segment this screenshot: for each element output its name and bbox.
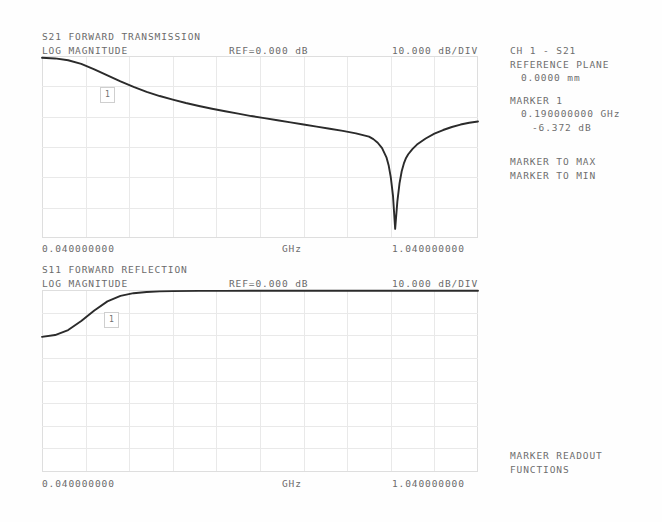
s21-marker-flag[interactable]: 1 [100,87,115,103]
softkey-marker-to-max[interactable]: MARKER TO MAX [510,155,660,169]
s21-format: LOG MAGNITUDE [42,45,128,56]
s11-marker-flag[interactable]: 1 [104,312,119,328]
s11-stop-freq: 1.040000000 [392,478,465,489]
marker-label: MARKER 1 [510,94,660,108]
s11-format: LOG MAGNITUDE [42,278,128,289]
softkey-functions[interactable]: FUNCTIONS [510,463,660,477]
s11-header-row: LOG MAGNITUDE REF=0.000 dB 10.000 dB/DIV [42,278,492,289]
s21-plot[interactable]: 1 [42,56,478,238]
s21-scale: 10.000 dB/DIV [392,45,478,56]
s21-stop-freq: 1.040000000 [392,243,465,254]
softkey-marker-to-min[interactable]: MARKER TO MIN [510,169,660,183]
status-panel: CH 1 - S21 REFERENCE PLANE 0.0000 mm MAR… [510,44,660,182]
s11-unit: GHz [282,478,302,489]
s11-title: S11 FORWARD REFLECTION [42,264,188,275]
s11-start-freq: 0.040000000 [42,478,115,489]
vna-screen: S21 FORWARD TRANSMISSION LOG MAGNITUDE R… [0,0,662,522]
s11-scale: 10.000 dB/DIV [392,278,478,289]
s11-plot[interactable]: 1 [42,290,478,472]
s21-unit: GHz [282,243,302,254]
s21-header-row: LOG MAGNITUDE REF=0.000 dB 10.000 dB/DIV [42,45,492,56]
softkey-marker-readout[interactable]: MARKER READOUT [510,449,660,463]
s21-start-freq: 0.040000000 [42,243,115,254]
reference-plane-label: REFERENCE PLANE [510,58,660,72]
reference-plane-value: 0.0000 mm [510,71,660,85]
s21-reference: REF=0.000 dB [229,45,308,56]
s21-title: S21 FORWARD TRANSMISSION [42,31,201,42]
marker-frequency: 0.190000000 GHz [510,107,660,121]
s21-trace [42,56,478,238]
s21-axis-row: 0.040000000 GHz 1.040000000 [42,243,492,254]
channel-readout: CH 1 - S21 [510,44,660,58]
s11-axis-row: 0.040000000 GHz 1.040000000 [42,478,492,489]
marker-magnitude: -6.372 dB [510,121,660,135]
s11-reference: REF=0.000 dB [229,278,308,289]
footer-panel: MARKER READOUT FUNCTIONS [510,449,660,476]
